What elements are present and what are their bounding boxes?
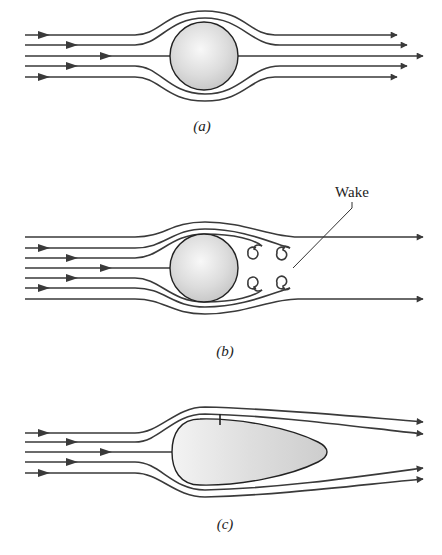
sphere <box>170 22 238 90</box>
wake-leader-line <box>293 202 352 268</box>
flow-diagram: (a) Wake (b) <box>0 0 442 555</box>
streamlined-body <box>172 419 327 485</box>
panel-b: Wake (b) <box>25 184 423 360</box>
panel-label-b: (b) <box>216 343 234 360</box>
eddy <box>248 245 262 259</box>
eddy <box>277 276 290 290</box>
wake-label: Wake <box>335 184 369 200</box>
eddy <box>277 246 290 260</box>
panel-label-c: (c) <box>217 516 234 533</box>
sphere <box>170 234 238 302</box>
arrowheads <box>38 429 112 477</box>
streamline <box>25 229 290 248</box>
eddy <box>248 277 262 291</box>
panel-a: (a) <box>25 11 423 135</box>
streamline <box>25 288 290 307</box>
wake-eddies <box>248 245 290 291</box>
panel-c: (c) <box>25 407 423 533</box>
panel-label-a: (a) <box>193 118 211 135</box>
